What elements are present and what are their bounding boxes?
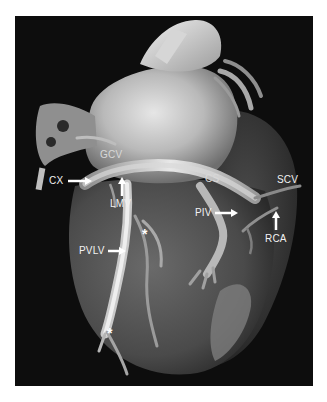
heart-render-panel: GCV CX LMV CS SCV PIV RCA PVLV * * [15,16,313,386]
label-cx: CX [49,176,63,186]
label-scv: SCV [277,175,298,185]
label-rca: RCA [265,234,287,244]
heart-illustration [15,16,313,386]
asterisk-marker-upper: * [142,227,147,241]
asterisk-marker-lower: * [107,326,112,340]
label-cs: CS [205,174,219,184]
label-gcv: GCV [100,150,122,160]
label-pvlv: PVLV [79,246,105,256]
label-lmv: LMV [110,199,131,209]
great-vessel-top [140,20,221,72]
label-piv: PIV [195,208,212,218]
